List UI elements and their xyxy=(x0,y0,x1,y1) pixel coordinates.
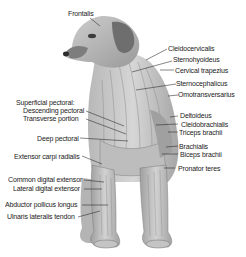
nose xyxy=(63,52,69,57)
label-deep-pectoral: Deep pectoral xyxy=(37,134,79,143)
label-biceps-brachii: Biceps brachii xyxy=(180,150,222,159)
label-frontalis: Frontalis xyxy=(68,9,94,18)
eye xyxy=(88,34,96,38)
label-triceps-brachii: Triceps brachii xyxy=(179,128,222,137)
label-sternohyoideus: Sternohyoideus xyxy=(173,55,220,64)
label-transverse-portion: Transverse portion xyxy=(23,114,79,123)
dog-muscle-diagram: Frontalis Cleidocervicalis Sternohyoideu… xyxy=(0,0,246,257)
label-cervical-trapezius: Cervical trapezius xyxy=(175,66,228,75)
label-pronator-teres: Pronator teres xyxy=(178,164,220,173)
label-omotransversarius: Omotransversarius xyxy=(178,90,235,99)
label-sternocephalicus: Sternocephalicus xyxy=(176,79,227,88)
label-ulnaris-lateralis-tendon: Ulnaris lateralis tendon xyxy=(7,212,75,221)
label-extensor-carpi-radialis: Extensor carpi radialis xyxy=(14,152,80,161)
label-abductor-pollicus-longus: Abductor pollicus longus xyxy=(5,200,77,209)
label-lateral-digital-extensor: Lateral digital extensor xyxy=(13,184,80,193)
label-deltoideus: Deltoideus xyxy=(180,111,212,120)
label-common-digital-extensor: Common digital extensor xyxy=(8,175,82,184)
label-cleidocervicalis: Cleidocervicalis xyxy=(168,44,214,53)
